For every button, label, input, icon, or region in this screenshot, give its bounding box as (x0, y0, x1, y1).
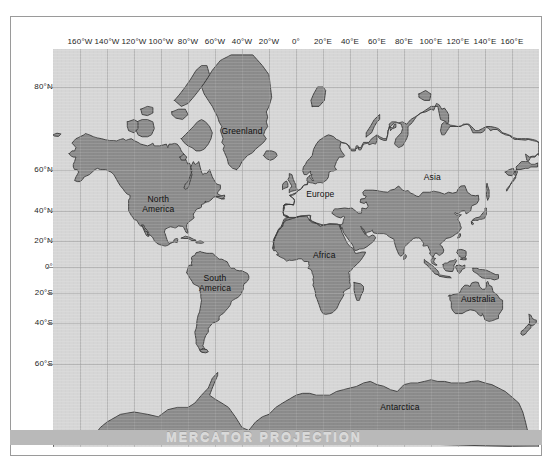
longitude-tick-6: 40°W (232, 35, 252, 49)
landmass-newzealand-n (529, 314, 536, 326)
longitude-axis: 160°W140°W120°W100°W80°W60°W40°W20°W0°20… (53, 35, 539, 49)
longitude-tick-0: 160°W (67, 35, 92, 49)
landmass-newzealand-s (521, 324, 531, 335)
longitude-tick-1: 140°W (94, 35, 119, 49)
longitude-tick-5: 60°W (205, 35, 225, 49)
landmass-hispaniola (196, 241, 204, 243)
landmass-tierra (200, 349, 208, 353)
landmass-sakhalin (486, 183, 489, 200)
landmass-new-guinea (473, 268, 499, 280)
landmass-severnaya (419, 91, 431, 101)
landmass-mindanao (461, 258, 466, 260)
landmass-novaya-zemlya (366, 115, 380, 137)
landmass-south-america (187, 251, 249, 352)
longitude-tick-11: 60°E (368, 35, 386, 49)
landmass-banks-is (127, 120, 138, 133)
landmass-philippines (457, 249, 466, 258)
landmass-uk (288, 173, 297, 192)
longitude-tick-15: 140°E (474, 35, 497, 49)
world-map-landmasses (53, 49, 539, 447)
projection-caption: MERCATOR PROJECTION (10, 430, 530, 445)
landmass-devon-is (172, 109, 188, 119)
landmass-svalbard (311, 87, 326, 107)
longitude-tick-2: 120°W (121, 35, 146, 49)
landmass-baffin (181, 120, 212, 151)
map-figure-frame: 160°W140°W120°W100°W80°W60°W40°W20°W0°20… (10, 16, 542, 456)
landmass-africa-eurasia (272, 104, 539, 315)
longitude-tick-4: 80°W (178, 35, 198, 49)
landmass-sri-lanka (404, 254, 407, 259)
world-map-plate: GreenlandNorth AmericaSouth AmericaEurop… (53, 49, 539, 447)
landmass-borneo (443, 259, 457, 271)
landmass-melville-is (141, 106, 153, 115)
landmass-ireland (283, 181, 288, 189)
landmass-japan (472, 208, 487, 225)
longitude-tick-3: 100°W (148, 35, 173, 49)
projection-caption-band: MERCATOR PROJECTION (10, 430, 542, 445)
landmass-cuba (181, 236, 196, 240)
longitude-tick-8: 0° (292, 35, 300, 49)
longitude-tick-7: 20°W (259, 35, 279, 49)
landmass-sulawesi (455, 265, 465, 273)
landmass-australia (449, 281, 503, 321)
landmass-taiwan (458, 233, 461, 238)
longitude-tick-12: 80°E (395, 35, 413, 49)
landmass-greenland (202, 55, 272, 170)
landmass-iceland (264, 151, 278, 160)
longitude-tick-9: 20°E (314, 35, 332, 49)
longitude-tick-14: 120°E (447, 35, 470, 49)
landmass-java (438, 275, 452, 278)
longitude-tick-13: 100°E (420, 35, 443, 49)
longitude-tick-16: 160°E (501, 35, 524, 49)
page-bleed-through-text (0, 0, 552, 11)
landmass-kamchatka-n (505, 168, 514, 176)
landmass-wrangel (53, 133, 61, 136)
longitude-tick-10: 40°E (341, 35, 359, 49)
landmass-madagascar (354, 283, 363, 301)
